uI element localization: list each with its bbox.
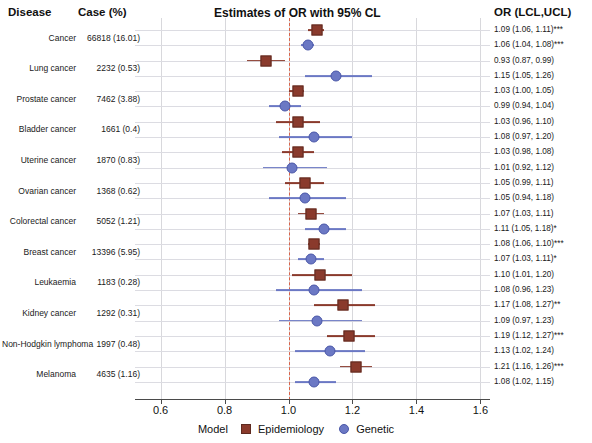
point-marker-genetic [299, 193, 310, 204]
or-value-label: 1.08 (1.02, 1.15) [494, 377, 590, 387]
point-marker-epidemiology [293, 147, 304, 158]
column-header-or: OR (LCL,UCL) [494, 6, 571, 18]
forest-plot-figure: Disease Case (%) Estimates of OR with 95… [0, 0, 592, 443]
or-value-label: 1.03 (0.96, 1.10) [494, 117, 590, 127]
point-marker-genetic [286, 162, 297, 173]
disease-label: Colorectal cancer [2, 216, 76, 226]
significance-stars: *** [554, 40, 564, 49]
disease-label: Prostate cancer [2, 94, 76, 104]
point-marker-epidemiology [261, 55, 272, 66]
point-marker-epidemiology [293, 116, 304, 127]
or-value-label: 1.07 (1.03, 1.11) [494, 209, 590, 219]
significance-stars: *** [554, 362, 564, 371]
point-marker-epidemiology [312, 25, 323, 36]
or-value-label: 1.01 (0.92, 1.12) [494, 163, 590, 173]
case-count-label: 7462 (3.88) [78, 94, 140, 104]
legend-genetic-marker-icon [339, 424, 349, 434]
or-value-label: 1.19 (1.12, 1.27)*** [494, 331, 590, 341]
gridline-horizontal [135, 61, 490, 62]
gridline-horizontal [135, 367, 490, 368]
point-marker-genetic [331, 70, 342, 81]
significance-stars: *** [554, 239, 564, 248]
point-marker-epidemiology [299, 178, 310, 189]
point-marker-epidemiology [350, 361, 361, 372]
case-count-label: 66818 (16.01) [78, 33, 140, 43]
or-value-label: 1.05 (0.99, 1.11) [494, 178, 590, 188]
legend-epidemiology-marker-icon [241, 424, 251, 434]
x-axis-tick-label: 1.0 [281, 404, 296, 416]
x-axis-tick-label: 0.6 [153, 404, 168, 416]
legend-title: Model [198, 423, 228, 435]
or-value-label: 1.08 (0.96, 1.23) [494, 285, 590, 295]
or-value-label: 1.08 (0.97, 1.20) [494, 132, 590, 142]
column-header-disease: Disease [8, 6, 51, 18]
legend-genetic-label: Genetic [356, 423, 394, 435]
point-marker-genetic [305, 254, 316, 265]
or-value-label: 1.03 (0.98, 1.08) [494, 147, 590, 157]
case-count-label: 1870 (0.83) [78, 155, 140, 165]
or-value-label: 1.21 (1.16, 1.26)*** [494, 362, 590, 372]
case-count-label: 4635 (1.16) [78, 369, 140, 379]
or-value-label: 1.07 (1.03, 1.11)* [494, 254, 590, 264]
column-header-case: Case (%) [78, 6, 127, 18]
point-marker-genetic [325, 346, 336, 357]
x-axis-tick-label: 1.6 [473, 404, 488, 416]
gridline-horizontal [135, 91, 490, 92]
disease-label: Ovarian cancer [2, 186, 76, 196]
or-value-label: 1.13 (1.02, 1.24) [494, 346, 590, 356]
disease-label: Uterine cancer [2, 155, 76, 165]
significance-stars: *** [554, 331, 564, 340]
point-marker-epidemiology [293, 86, 304, 97]
case-count-label: 1292 (0.31) [78, 308, 140, 318]
or-value-label: 1.09 (1.06, 1.11)*** [494, 25, 590, 35]
legend: Model Epidemiology Genetic [0, 422, 592, 435]
significance-stars: * [553, 254, 556, 263]
x-axis-tick-label: 1.4 [409, 404, 424, 416]
disease-label: Melanoma [2, 369, 76, 379]
or-value-label: 1.06 (1.04, 1.08)*** [494, 40, 590, 50]
or-value-label: 1.10 (1.01, 1.20) [494, 270, 590, 280]
or-value-label: 1.08 (1.06, 1.10)*** [494, 239, 590, 249]
plot-area [135, 18, 490, 400]
point-marker-epidemiology [337, 300, 348, 311]
point-marker-epidemiology [315, 269, 326, 280]
disease-label: Leukaemia [2, 277, 76, 287]
case-count-label: 1183 (0.28) [78, 277, 140, 287]
or-value-label: 1.05 (0.94, 1.18) [494, 193, 590, 203]
or-value-label: 1.17 (1.08, 1.27)** [494, 300, 590, 310]
case-count-label: 1997 (0.48) [78, 339, 140, 349]
or-value-label: 0.99 (0.94, 1.04) [494, 101, 590, 111]
point-marker-epidemiology [309, 239, 320, 250]
or-value-label: 1.03 (1.00, 1.05) [494, 86, 590, 96]
or-value-label: 1.15 (1.05, 1.26) [494, 71, 590, 81]
case-count-label: 1661 (0.4) [78, 124, 140, 134]
or-value-label: 0.93 (0.87, 0.99) [494, 56, 590, 66]
point-marker-epidemiology [344, 331, 355, 342]
or-value-label: 1.09 (0.97, 1.23) [494, 316, 590, 326]
disease-label: Bladder cancer [2, 124, 76, 134]
point-marker-genetic [309, 285, 320, 296]
gridline-horizontal [135, 305, 490, 306]
significance-stars: *** [553, 25, 563, 34]
case-count-label: 1368 (0.62) [78, 186, 140, 196]
point-marker-genetic [309, 376, 320, 387]
disease-label: Breast cancer [2, 247, 76, 257]
x-axis-line [135, 399, 490, 400]
disease-label: Cancer [2, 33, 76, 43]
point-marker-genetic [312, 315, 323, 326]
point-marker-genetic [302, 40, 313, 51]
significance-stars: ** [554, 300, 560, 309]
significance-stars: * [553, 224, 556, 233]
gridline-horizontal [135, 106, 490, 107]
case-count-label: 2232 (0.53) [78, 63, 140, 73]
x-axis-tick-label: 0.8 [217, 404, 232, 416]
disease-label: Lung cancer [2, 63, 76, 73]
point-marker-genetic [309, 132, 320, 143]
or-value-label: 1.11 (1.05, 1.18)* [494, 224, 590, 234]
gridline-horizontal [135, 336, 490, 337]
disease-label: Kidney cancer [2, 308, 76, 318]
point-marker-genetic [280, 101, 291, 112]
reference-line [289, 18, 290, 400]
case-count-label: 13396 (5.95) [78, 247, 140, 257]
x-axis-tick-label: 1.2 [345, 404, 360, 416]
